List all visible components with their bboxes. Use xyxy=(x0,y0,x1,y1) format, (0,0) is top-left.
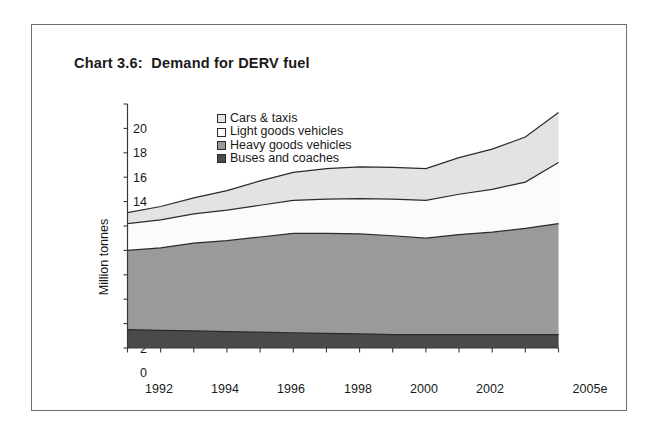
legend-swatch-buses-coaches xyxy=(217,154,226,163)
x-tick-label: 1998 xyxy=(328,383,388,396)
legend-swatch-cars-taxis xyxy=(217,114,226,123)
legend-label-cars-taxis: Cars & taxis xyxy=(230,112,297,125)
legend-item-light-goods: Light goods vehicles xyxy=(217,125,352,138)
y-tick-label: 12 xyxy=(113,221,147,234)
page-root: Chart 3.6: Demand for DERV fuel Million … xyxy=(0,0,659,438)
legend-swatch-heavy-goods xyxy=(217,141,226,150)
chart-title: Chart 3.6: Demand for DERV fuel xyxy=(74,55,310,71)
y-tick-label: 4 xyxy=(113,319,147,332)
x-tick-label: 2005e xyxy=(560,383,620,396)
y-tick-label: 6 xyxy=(113,294,147,307)
x-tick-label: 2002 xyxy=(460,383,520,396)
legend-label-heavy-goods: Heavy goods vehicles xyxy=(230,139,352,152)
legend-label-buses-coaches: Buses and coaches xyxy=(230,152,339,165)
x-tick-label: 1992 xyxy=(129,383,189,396)
y-tick-label: 10 xyxy=(113,245,147,258)
chart-panel: Chart 3.6: Demand for DERV fuel Million … xyxy=(31,24,627,411)
y-tick-label: 14 xyxy=(113,196,147,209)
legend-label-light-goods: Light goods vehicles xyxy=(230,125,343,138)
x-tick-label: 2000 xyxy=(394,383,454,396)
y-tick-label: 0 xyxy=(113,367,147,380)
y-axis-title: Million tonnes xyxy=(97,177,111,337)
legend-item-buses-coaches: Buses and coaches xyxy=(217,152,352,165)
legend-swatch-light-goods xyxy=(217,128,226,137)
x-tick-label: 1996 xyxy=(261,383,321,396)
y-tick-label: 2 xyxy=(113,343,147,356)
y-tick-label: 18 xyxy=(113,147,147,160)
legend-item-heavy-goods: Heavy goods vehicles xyxy=(217,139,352,152)
legend-item-cars-taxis: Cars & taxis xyxy=(217,112,352,125)
x-tick-label: 1994 xyxy=(195,383,255,396)
y-tick-label: 16 xyxy=(113,172,147,185)
y-tick-label: 20 xyxy=(113,123,147,136)
chart-legend: Cars & taxis Light goods vehicles Heavy … xyxy=(217,112,352,166)
y-tick-label: 8 xyxy=(113,270,147,283)
